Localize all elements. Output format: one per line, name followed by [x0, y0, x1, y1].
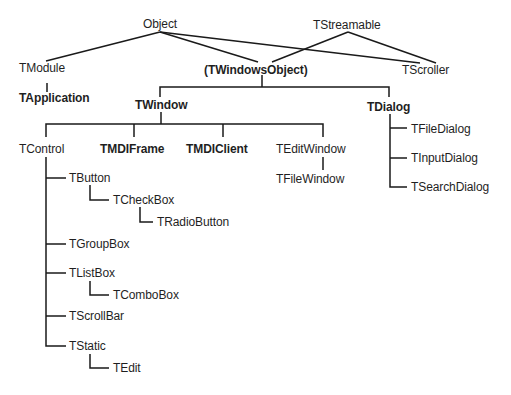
- node-tcheckbox: TCheckBox: [113, 193, 174, 207]
- edge-tcheckbox-tradiobutton: [140, 207, 153, 222]
- node-tscroller: TScroller: [402, 63, 449, 77]
- node-tmdiclient: TMDIClient: [186, 142, 248, 156]
- node-tstatic: TStatic: [69, 339, 106, 353]
- node-tsearchdialog: TSearchDialog: [411, 180, 489, 194]
- edge-tdialog-trunk: [390, 114, 407, 187]
- node-tfilewindow: TFileWindow: [276, 172, 344, 186]
- class-hierarchy-diagram: Object TStreamable TModule (TWindowsObje…: [0, 0, 511, 395]
- node-tmdiframe: TMDIFrame: [100, 142, 164, 156]
- edge-object-tmodule: [46, 32, 160, 61]
- node-tedit: TEdit: [113, 361, 141, 375]
- edge-object-twindowsobject: [160, 32, 258, 62]
- node-twindow: TWindow: [135, 98, 188, 112]
- edge-tstreamable-tscroller: [348, 32, 436, 63]
- node-tradiobutton: TRadioButton: [157, 215, 229, 229]
- edge-tstatic-tedit: [90, 354, 109, 368]
- node-tmodule: TModule: [19, 61, 65, 75]
- node-tcombobox: TComboBox: [113, 288, 179, 302]
- connector-lines: [0, 0, 511, 395]
- node-tapplication: TApplication: [19, 91, 90, 105]
- node-tdialog: TDialog: [367, 100, 410, 114]
- node-tscrollbar: TScrollBar: [69, 309, 124, 323]
- node-tcontrol: TControl: [19, 142, 64, 156]
- node-tinputdialog: TInputDialog: [411, 151, 478, 165]
- node-tstreamable: TStreamable: [313, 18, 381, 32]
- node-tgroupbox: TGroupBox: [69, 237, 129, 251]
- edge-twindowsobject-children: [160, 87, 389, 97]
- edge-tcontrol-trunk: [46, 157, 66, 346]
- edge-tbutton-tcheckbox: [90, 185, 109, 200]
- node-teditwindow: TEditWindow: [276, 142, 346, 156]
- node-tfiledialog: TFileDialog: [411, 122, 471, 136]
- edge-twindow-children: [46, 124, 323, 137]
- node-twindowsobject: (TWindowsObject): [204, 63, 308, 77]
- edge-tlistbox-tcombobox: [90, 281, 109, 295]
- node-tbutton: TButton: [69, 171, 110, 185]
- node-object: Object: [143, 17, 177, 31]
- edge-object-tscroller: [160, 32, 420, 63]
- node-tlistbox: TListBox: [69, 266, 115, 280]
